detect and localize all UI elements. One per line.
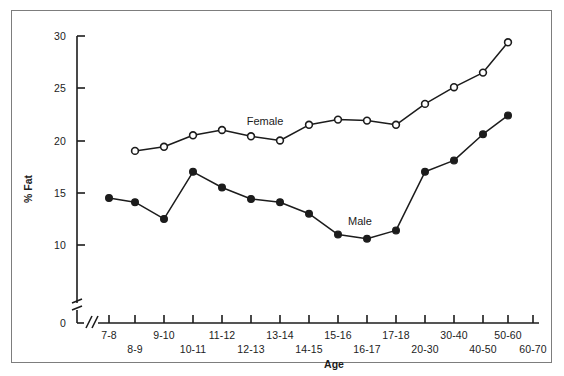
y-tick-label-25: 25 bbox=[30, 82, 66, 94]
data-point-male-14 bbox=[505, 112, 512, 119]
data-point-female-10 bbox=[422, 101, 429, 108]
series-label-female: Female bbox=[247, 115, 284, 127]
x-tick-label-8-9: 8-9 bbox=[127, 343, 142, 355]
y-tick-label-10: 10 bbox=[30, 239, 66, 251]
x-axis-break-icon bbox=[86, 316, 98, 328]
x-tick-label-50-60: 50-60 bbox=[494, 329, 521, 341]
data-point-male-2 bbox=[161, 216, 168, 223]
data-point-female-8 bbox=[364, 117, 371, 124]
data-point-female-12 bbox=[480, 69, 487, 76]
data-point-male-7 bbox=[306, 210, 313, 217]
data-point-female-6 bbox=[306, 121, 313, 128]
data-point-male-4 bbox=[219, 184, 226, 191]
data-point-female-0 bbox=[132, 148, 139, 155]
y-tick-label-20: 20 bbox=[30, 135, 66, 147]
data-point-female-5 bbox=[277, 137, 284, 144]
chart-figure: 30 25 20 15 10 0 7-8 8-9 9-10 10-11 11-1… bbox=[0, 0, 564, 376]
series-label-male: Male bbox=[348, 215, 372, 227]
x-tick-label-12-13: 12-13 bbox=[237, 343, 264, 355]
data-point-female-9 bbox=[393, 121, 400, 128]
data-point-female-7 bbox=[335, 116, 342, 123]
data-point-female-2 bbox=[190, 132, 197, 139]
data-point-female-1 bbox=[161, 143, 168, 150]
x-tick-label-15-16: 15-16 bbox=[324, 329, 351, 341]
x-tick-label-7-8: 7-8 bbox=[101, 329, 116, 341]
x-tick-label-40-50: 40-50 bbox=[469, 343, 496, 355]
x-tick-label-14-15: 14-15 bbox=[295, 343, 322, 355]
data-point-male-3 bbox=[190, 168, 197, 175]
data-series-layer bbox=[106, 39, 512, 242]
data-point-female-11 bbox=[451, 84, 458, 91]
x-tick-label-11-12: 11-12 bbox=[209, 329, 236, 341]
chart-frame: 30 25 20 15 10 0 7-8 8-9 9-10 10-11 11-1… bbox=[11, 10, 552, 363]
data-point-male-8 bbox=[335, 231, 342, 238]
data-point-male-13 bbox=[480, 131, 487, 138]
y-axis-break-icon bbox=[72, 299, 82, 310]
x-tick-label-60-70: 60-70 bbox=[519, 343, 546, 355]
data-point-male-10 bbox=[393, 227, 400, 234]
data-point-female-4 bbox=[248, 133, 255, 140]
y-tick-label-0: 0 bbox=[30, 317, 66, 329]
x-tick-label-13-14: 13-14 bbox=[266, 329, 293, 341]
data-point-male-12 bbox=[451, 157, 458, 164]
x-tick-label-10-11: 10-11 bbox=[180, 343, 207, 355]
data-point-female-13 bbox=[505, 39, 512, 46]
data-point-male-5 bbox=[248, 196, 255, 203]
x-axis-title: Age bbox=[324, 358, 344, 370]
chart-plot-area bbox=[12, 11, 553, 364]
x-tick-label-20-30: 20-30 bbox=[411, 343, 438, 355]
x-tick-label-16-17: 16-17 bbox=[353, 343, 380, 355]
y-axis-title: % Fat bbox=[22, 175, 34, 203]
series-line-male bbox=[109, 115, 508, 238]
x-tick-label-30-40: 30-40 bbox=[440, 329, 467, 341]
y-tick-label-30: 30 bbox=[30, 30, 66, 42]
data-point-male-11 bbox=[422, 168, 429, 175]
x-tick-label-17-18: 17-18 bbox=[382, 329, 409, 341]
data-point-female-3 bbox=[219, 127, 226, 134]
data-point-male-6 bbox=[277, 199, 284, 206]
data-point-male-1 bbox=[132, 199, 139, 206]
y-tick-label-15: 15 bbox=[30, 187, 66, 199]
x-tick-label-9-10: 9-10 bbox=[153, 329, 174, 341]
data-point-male-9 bbox=[364, 235, 371, 242]
data-point-male-0 bbox=[106, 195, 113, 202]
